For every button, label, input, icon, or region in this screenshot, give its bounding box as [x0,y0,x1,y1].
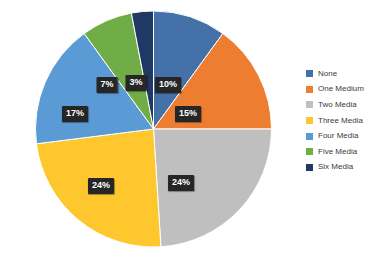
legend-item-five-media[interactable]: Five Media [306,144,386,160]
legend-swatch-icon [306,133,313,140]
data-label-three-media: 24% [88,178,114,194]
legend-swatch-icon [306,101,313,108]
legend-swatch-icon [306,117,313,124]
data-label-four-media: 17% [62,106,88,122]
data-label-six-media: 3% [125,75,146,91]
data-label-one-medium: 15% [175,106,201,122]
legend-item-label: Five Media [318,148,357,156]
pie-chart-figure: 10% 15% 24% 24% 17% 7% 3% NoneOne Medium… [0,0,389,258]
legend-item-six-media[interactable]: Six Media [306,160,386,176]
chart-legend: NoneOne MediumTwo MediaThree MediaFour M… [306,66,386,175]
pie-chart-plot-area: 10% 15% 24% 24% 17% 7% 3% [11,9,296,249]
legend-item-none[interactable]: None [306,66,386,82]
legend-item-label: Three Media [318,117,363,125]
pie-slice-group [36,11,272,247]
legend-item-two-media[interactable]: Two Media [306,97,386,113]
legend-item-label: None [318,70,337,78]
data-label-five-media: 7% [96,77,117,93]
legend-item-label: Two Media [318,101,357,109]
legend-item-four-media[interactable]: Four Media [306,128,386,144]
legend-item-label: Six Media [318,163,353,171]
legend-swatch-icon [306,164,313,171]
legend-item-one-medium[interactable]: One Medium [306,82,386,98]
data-label-none: 10% [155,77,181,93]
data-label-two-media: 24% [168,175,194,191]
legend-swatch-icon [306,70,313,77]
legend-swatch-icon [306,86,313,93]
legend-swatch-icon [306,148,313,155]
legend-item-three-media[interactable]: Three Media [306,113,386,129]
legend-item-label: One Medium [318,85,364,93]
pie-svg [11,9,296,249]
legend-item-label: Four Media [318,132,358,140]
